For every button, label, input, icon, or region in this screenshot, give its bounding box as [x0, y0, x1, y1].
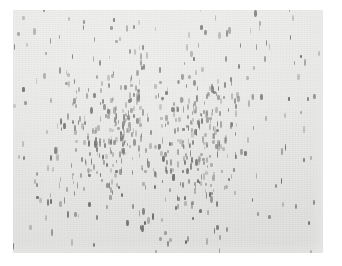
scatter-mark [46, 130, 48, 134]
scatter-mark [224, 137, 227, 144]
scatter-mark [214, 228, 215, 234]
scatter-mark [43, 73, 46, 79]
scatter-mark [266, 40, 267, 46]
scatter-mark [95, 141, 98, 148]
scatter-mark [100, 88, 102, 93]
scatter-mark [197, 86, 198, 91]
scatter-mark [285, 144, 286, 151]
scatter-mark [225, 56, 228, 62]
scatter-mark [187, 115, 189, 118]
scatter-mark [219, 111, 221, 116]
scatter-mark [313, 200, 315, 205]
scatter-mark [228, 27, 231, 34]
scatter-mark [76, 96, 78, 99]
scatter-mark [150, 130, 152, 135]
scatter-mark [33, 28, 36, 34]
scatter-mark [133, 93, 134, 97]
scatter-mark [210, 163, 213, 167]
scatter-mark [170, 159, 172, 166]
scatter-mark [190, 150, 191, 157]
scatter-mark [254, 10, 257, 17]
scatter-mark [65, 82, 68, 86]
scatter-mark [165, 123, 166, 127]
scatter-mark [63, 123, 65, 129]
scatter-mark [119, 37, 121, 41]
scatter-mark [188, 32, 190, 38]
scatter-mark [313, 94, 316, 100]
scatter-mark [155, 172, 157, 178]
scatter-mark [129, 145, 131, 148]
scatter-mark [281, 178, 282, 184]
scatter-mark [96, 75, 98, 79]
scatter-mark [147, 217, 150, 223]
scatter-mark [192, 118, 194, 122]
scatter-mark [224, 82, 226, 87]
scatter-mark [72, 173, 75, 177]
scatter-mark [231, 81, 232, 86]
scatter-mark [80, 173, 82, 178]
scatter-mark [227, 154, 228, 158]
scatter-mark [200, 113, 202, 117]
scatter-mark [300, 111, 303, 114]
scatter-mark [130, 84, 133, 87]
scatter-mark [289, 10, 291, 12]
scatter-mark [188, 179, 190, 184]
scatter-mark [122, 134, 124, 141]
scatter-mark [200, 10, 202, 12]
scatter-mark [161, 97, 164, 100]
scatter-mark [57, 123, 58, 129]
scatter-mark [147, 117, 149, 122]
scatter-mark [108, 83, 110, 88]
scatter-mark [235, 110, 237, 116]
scatter-mark [147, 161, 150, 168]
scatter-mark [304, 59, 306, 66]
scatter-mark [117, 127, 120, 130]
scatter-mark [132, 170, 133, 174]
scatter-mark [122, 109, 124, 113]
scatter-mark [186, 156, 189, 160]
plot-area [13, 10, 323, 253]
scatter-mark [144, 170, 147, 173]
scatter-mark [122, 123, 125, 129]
scatter-mark [133, 114, 135, 118]
scatter-mark [96, 215, 98, 220]
scatter-mark [235, 155, 237, 158]
scatter-mark [177, 197, 179, 201]
scatter-mark [154, 84, 156, 89]
scatter-mark [129, 92, 131, 99]
scatter-mark [71, 163, 72, 168]
scatter-mark [159, 67, 161, 72]
scatter-mark [76, 90, 77, 94]
scatter-mark [89, 152, 91, 157]
scatter-mark [67, 73, 70, 77]
scatter-mark [141, 225, 143, 232]
scatter-mark [72, 54, 74, 59]
scatter-mark [225, 185, 228, 189]
scatter-mark [124, 85, 126, 90]
scatter-mark [209, 155, 211, 159]
scatter-mark [139, 153, 140, 158]
scatter-mark [101, 81, 103, 86]
scatter-mark [136, 70, 139, 76]
scatter-mark [300, 55, 302, 58]
scatter-mark [97, 125, 99, 131]
scatter-mark [231, 122, 234, 128]
scatter-mark [215, 15, 216, 21]
scatter-mark [126, 220, 129, 226]
scatter-mark [190, 163, 191, 170]
scatter-mark [188, 75, 191, 79]
scatter-mark [126, 128, 128, 133]
scatter-mark [159, 237, 162, 241]
scatter-mark [228, 108, 229, 112]
scatter-mark [55, 147, 58, 154]
scatter-mark [217, 151, 218, 157]
scatter-mark [66, 187, 68, 192]
scatter-mark [120, 135, 121, 141]
scatter-mark [207, 210, 209, 215]
scatter-mark [106, 163, 108, 167]
scatter-mark [131, 132, 133, 137]
scatter-mark [88, 202, 91, 207]
scatter-mark [173, 102, 175, 106]
scatter-mark [218, 32, 221, 39]
scatter-mark [141, 165, 143, 170]
